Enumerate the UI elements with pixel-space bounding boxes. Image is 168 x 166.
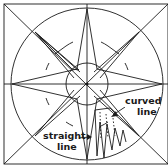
label-curved: curved: [125, 95, 162, 106]
label-straight: straight: [43, 130, 86, 141]
middle-arc: [101, 42, 108, 46]
middle-arc: [66, 122, 73, 126]
middle-arc: [125, 63, 128, 70]
center-dot: [86, 83, 89, 86]
label-curved-line: line: [137, 106, 157, 117]
middle-arc: [66, 42, 73, 46]
middle-arc: [46, 98, 49, 105]
compass-rose-diagram: curved line straight line: [0, 0, 168, 166]
middle-arc: [46, 63, 49, 70]
zigzag-lines: [95, 110, 126, 158]
label-straight-line: line: [57, 141, 77, 152]
